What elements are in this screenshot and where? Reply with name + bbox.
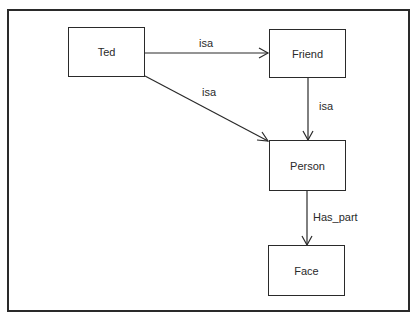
node-label: Face [294, 265, 318, 277]
node-ted[interactable]: Ted [68, 27, 145, 77]
node-label: Ted [98, 46, 116, 58]
edge-label-friend-person: isa [319, 100, 333, 112]
edge-label-ted-friend: isa [199, 37, 213, 49]
node-friend[interactable]: Friend [269, 29, 346, 78]
node-label: Person [290, 160, 325, 172]
edge-ted-friend [145, 48, 268, 58]
edge-person-face [302, 191, 312, 245]
edge-label-person-face: Has_part [313, 211, 358, 223]
edge-label-ted-person: isa [202, 86, 216, 98]
node-label: Friend [292, 48, 323, 60]
diagram-canvas: isa isa isa Has_part Ted Friend Person F… [0, 0, 414, 320]
node-face[interactable]: Face [268, 245, 345, 296]
node-person[interactable]: Person [269, 140, 346, 191]
edge-friend-person [303, 78, 313, 140]
